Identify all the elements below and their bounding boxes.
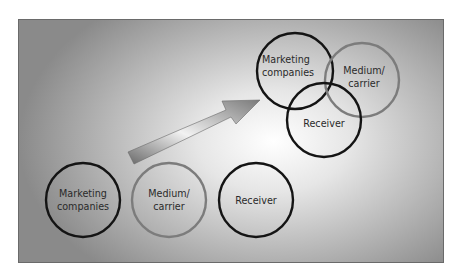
circle-receiver: Receiver <box>219 163 293 237</box>
label-receiver: Receiver <box>235 195 277 206</box>
arrow-icon <box>128 100 260 164</box>
label-medium: Medium/ <box>148 188 190 199</box>
diagram-canvas: Marketing companies Medium/ carrier Rece… <box>0 0 463 276</box>
overlap-label-receiver: Receiver <box>303 118 345 129</box>
overlapping-circles: Marketing companies Medium/ carrier Rece… <box>257 33 399 157</box>
overlap-label-companies: companies <box>262 67 314 78</box>
overlap-label-medium: Medium/ <box>343 65 385 76</box>
overlap-label-marketing: Marketing <box>262 54 310 65</box>
overlap-circle-medium-carrier: Medium/ carrier <box>325 43 399 117</box>
separate-circles: Marketing companies Medium/ carrier Rece… <box>46 163 293 237</box>
label-marketing: Marketing <box>59 188 107 199</box>
overlap-label-carrier: carrier <box>348 78 379 89</box>
label-carrier: carrier <box>153 201 184 212</box>
circle-marketing-companies: Marketing companies <box>46 163 120 237</box>
label-companies: companies <box>57 201 109 212</box>
circle-medium-carrier: Medium/ carrier <box>132 163 206 237</box>
